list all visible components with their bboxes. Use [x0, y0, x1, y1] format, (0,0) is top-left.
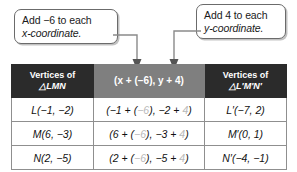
cell-original-vertex: N(2, −5) [12, 146, 94, 170]
header-vertices-lmn-line2: △LMN [12, 81, 93, 92]
callout-add-y-coordinate: Add 4 to each y-coordinate. [196, 4, 286, 39]
header-vertices-lmn-line1: Vertices of [12, 70, 93, 81]
callout-add-y-line2: y-coordinate. [204, 22, 279, 35]
table-row: N(2, −5) (2 + (−6), −5 + 4) N′(−4, −1) [12, 146, 287, 170]
table-row: M(6, −3) (6 + (−6), −3 + 4) M′(0, 1) [12, 122, 287, 146]
cell-translation-work: (−1 + (−6), −2 + 4) [94, 98, 205, 122]
cell-translation-work: (2 + (−6), −5 + 4) [94, 146, 205, 170]
header-vertices-lmn-prime-line1: Vertices of [205, 70, 286, 81]
translation-table: Vertices of △LMN (x + (−6), y + 4) Verti… [11, 64, 287, 170]
header-vertices-lmn-prime: Vertices of △L′M′N′ [205, 65, 287, 98]
cell-image-vertex: M′(0, 1) [205, 122, 287, 146]
header-vertices-lmn-prime-line2: △L′M′N′ [205, 81, 286, 92]
cell-image-vertex: N′(−4, −1) [205, 146, 287, 170]
header-vertices-lmn: Vertices of △LMN [12, 65, 94, 98]
callout-add-x-line2: x-coordinate. [22, 27, 111, 40]
callout-add-y-line1: Add 4 to each [204, 9, 279, 22]
table-row: L(−1, −2) (−1 + (−6), −2 + 4) L′(−7, 2) [12, 98, 287, 122]
callout-add-x-line1: Add −6 to each [22, 14, 111, 27]
cell-original-vertex: L(−1, −2) [12, 98, 94, 122]
cell-original-vertex: M(6, −3) [12, 122, 94, 146]
cell-translation-work: (6 + (−6), −3 + 4) [94, 122, 205, 146]
header-translation-rule: (x + (−6), y + 4) [94, 65, 205, 98]
table-header-row: Vertices of △LMN (x + (−6), y + 4) Verti… [12, 65, 287, 98]
callout-add-x-coordinate: Add −6 to each x-coordinate. [14, 9, 118, 44]
cell-image-vertex: L′(−7, 2) [205, 98, 287, 122]
